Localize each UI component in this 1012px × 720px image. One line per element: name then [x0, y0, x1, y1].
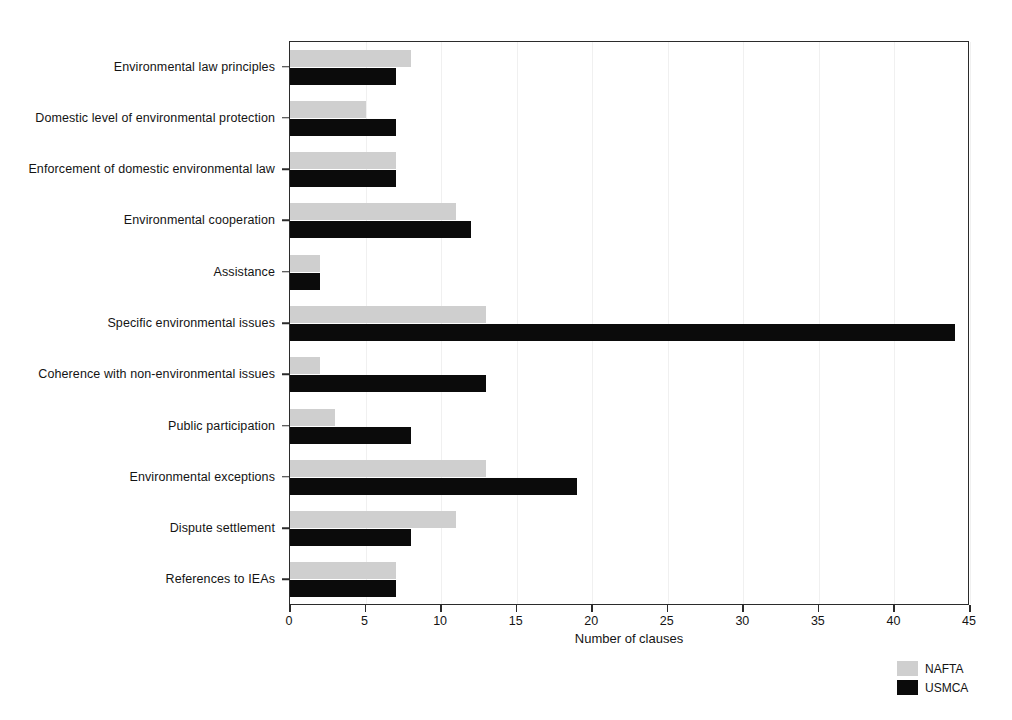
bar-nafta	[290, 255, 320, 272]
y-axis-label: Public participation	[168, 419, 275, 433]
bar-group	[290, 50, 968, 86]
y-axis-tick	[282, 66, 289, 68]
bar-usmca	[290, 580, 396, 597]
bar-nafta	[290, 357, 320, 374]
x-axis-tick	[289, 605, 291, 612]
bar-nafta	[290, 101, 366, 118]
bar-usmca	[290, 529, 411, 546]
legend-swatch-nafta	[897, 661, 918, 676]
bar-nafta	[290, 562, 396, 579]
x-axis-tick	[818, 605, 820, 612]
x-axis-tick	[365, 605, 367, 612]
bar-group	[290, 306, 968, 342]
y-axis-label: Environmental cooperation	[124, 213, 275, 227]
bar-nafta	[290, 511, 456, 528]
bar-usmca	[290, 273, 320, 290]
x-axis-tick	[440, 605, 442, 612]
y-axis-tick	[282, 425, 289, 427]
x-axis-tick	[969, 605, 971, 612]
bar-nafta	[290, 460, 486, 477]
x-axis-tick-label: 25	[660, 614, 674, 628]
x-axis: Number of clauses 051015202530354045	[289, 605, 969, 651]
x-axis-tick	[591, 605, 593, 612]
bar-group	[290, 460, 968, 496]
x-axis-tick	[893, 605, 895, 612]
y-axis-tick	[282, 579, 289, 581]
y-axis-tick	[282, 271, 289, 273]
y-axis-label: Coherence with non-environmental issues	[38, 367, 275, 381]
bar-nafta	[290, 203, 456, 220]
bar-group	[290, 255, 968, 291]
x-axis-tick-label: 35	[811, 614, 825, 628]
legend-label-usmca: USMCA	[925, 681, 968, 695]
bar-group	[290, 357, 968, 393]
bar-group	[290, 101, 968, 137]
y-axis-tick	[282, 168, 289, 170]
x-axis-tick-label: 0	[286, 614, 293, 628]
y-axis-tick	[282, 117, 289, 119]
x-axis-title: Number of clauses	[289, 631, 969, 646]
gridline	[970, 42, 971, 604]
y-axis-tick	[282, 527, 289, 529]
bar-nafta	[290, 306, 486, 323]
bar-usmca	[290, 478, 577, 495]
x-axis-tick-label: 5	[361, 614, 368, 628]
bars-layer	[290, 42, 968, 604]
bar-chart-figure: Environmental law principlesDomestic lev…	[0, 0, 1012, 720]
y-axis-category-labels: Environmental law principlesDomestic lev…	[0, 41, 289, 605]
y-axis-label: Domestic level of environmental protecti…	[35, 111, 275, 125]
bar-group	[290, 409, 968, 445]
y-axis-tick	[282, 476, 289, 478]
bar-usmca	[290, 170, 396, 187]
bar-nafta	[290, 152, 396, 169]
y-axis-label: Enforcement of domestic environmental la…	[28, 162, 275, 176]
y-axis-tick	[282, 322, 289, 324]
x-axis-tick-label: 10	[433, 614, 447, 628]
plot-area	[289, 41, 969, 605]
y-axis-label: Dispute settlement	[170, 521, 275, 535]
bar-nafta	[290, 409, 335, 426]
bar-usmca	[290, 375, 486, 392]
bar-usmca	[290, 324, 955, 341]
bar-usmca	[290, 119, 396, 136]
y-axis-label: Environmental exceptions	[129, 470, 275, 484]
bar-group	[290, 152, 968, 188]
y-axis-tick	[282, 220, 289, 222]
y-axis-label: Specific environmental issues	[107, 316, 275, 330]
bar-nafta	[290, 50, 411, 67]
x-axis-tick-label: 30	[735, 614, 749, 628]
legend-item-usmca: USMCA	[897, 679, 1007, 696]
x-axis-tick-label: 45	[962, 614, 976, 628]
bar-usmca	[290, 427, 411, 444]
bar-group	[290, 562, 968, 598]
y-axis-label: Assistance	[214, 265, 275, 279]
x-axis-tick	[516, 605, 518, 612]
legend-item-nafta: NAFTA	[897, 660, 1007, 677]
bar-group	[290, 511, 968, 547]
y-axis-label: References to IEAs	[166, 572, 276, 586]
bar-usmca	[290, 221, 471, 238]
legend: NAFTA USMCA	[897, 660, 1007, 698]
y-axis-tick	[282, 374, 289, 376]
legend-label-nafta: NAFTA	[925, 662, 963, 676]
bar-group	[290, 203, 968, 239]
bar-usmca	[290, 68, 396, 85]
x-axis-tick-label: 40	[886, 614, 900, 628]
x-axis-tick	[742, 605, 744, 612]
x-axis-tick-label: 15	[509, 614, 523, 628]
x-axis-tick-label: 20	[584, 614, 598, 628]
x-axis-tick	[667, 605, 669, 612]
legend-swatch-usmca	[897, 680, 918, 695]
y-axis-label: Environmental law principles	[114, 60, 275, 74]
